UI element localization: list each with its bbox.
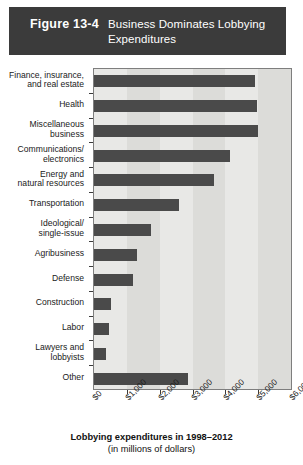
category-label-line: electronics [0,155,84,165]
category-label: Miscellaneousbusiness [0,120,88,140]
category-label: Labor [0,323,88,333]
category-label-line: business [0,130,84,140]
bar [94,224,151,236]
category-label: Communications/electronics [0,145,88,165]
category-label: Other [0,373,88,383]
category-label-line: Construction [0,298,84,308]
category-label-line: Agribusiness [0,249,84,259]
category-label-line: Other [0,373,84,383]
category-label: Lawyers andlobbyists [0,343,88,363]
x-axis-caption-line1: Lobbying expenditures in 1998–2012 [0,432,303,444]
bar [94,150,230,162]
x-axis-tick-label: $0 [90,388,104,402]
bar [94,100,257,112]
x-axis-caption: Lobbying expenditures in 1998–2012 (in m… [0,432,303,455]
category-label: Ideological/single-issue [0,219,88,239]
bar [94,249,137,261]
figure-title-inner: Figure 13-4 Business Dominates Lobbying … [30,17,278,46]
x-axis-caption-line2: (in millions of dollars) [0,444,303,456]
category-label-line: and real estate [0,80,84,90]
category-label: Construction [0,298,88,308]
category-label-line: Health [0,100,84,110]
category-label-line: single-issue [0,229,84,239]
category-label: Defense [0,274,88,284]
category-label: Energy andnatural resources [0,170,88,190]
category-label: Finance, insurance,and real estate [0,71,88,91]
bar [94,174,214,186]
bar-series [94,69,291,389]
bar [94,298,111,310]
bar [94,199,179,211]
category-label-line: Labor [0,323,84,333]
figure-title: Business Dominates Lobbying Expenditures [108,17,278,46]
plot-area [93,68,292,390]
bar [94,348,106,360]
category-axis-labels: Finance, insurance,and real estateHealth… [0,68,88,390]
bar [94,75,255,87]
category-label-line: lobbyists [0,353,84,363]
figure-13-4: Figure 13-4 Business Dominates Lobbying … [0,0,303,465]
page-bleed [297,0,303,60]
category-label-line: Transportation [0,199,84,209]
bar [94,274,133,286]
category-label: Health [0,100,88,110]
category-label-line: Defense [0,274,84,284]
category-label-line: natural resources [0,179,84,189]
bar [94,125,258,137]
category-label: Agribusiness [0,249,88,259]
figure-number: Figure 13-4 [30,17,99,31]
bar [94,323,109,335]
category-label: Transportation [0,199,88,209]
figure-title-band: Figure 13-4 Business Dominates Lobbying … [9,7,286,55]
